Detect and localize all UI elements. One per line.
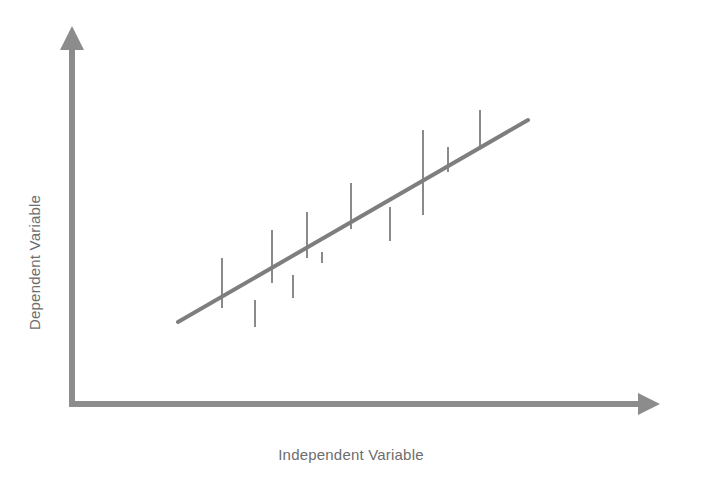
axes-group — [60, 26, 660, 415]
x-axis-arrowhead — [638, 393, 660, 415]
regression-diagram-figure: Dependent Variable Independent Variable — [0, 0, 702, 485]
y-axis-label: Dependent Variable — [20, 30, 50, 330]
y-axis-arrowhead — [60, 26, 84, 50]
plot-canvas — [0, 0, 702, 485]
regression-line — [178, 120, 528, 322]
x-axis-label: Independent Variable — [0, 446, 702, 463]
residual-segments-group — [222, 110, 480, 327]
